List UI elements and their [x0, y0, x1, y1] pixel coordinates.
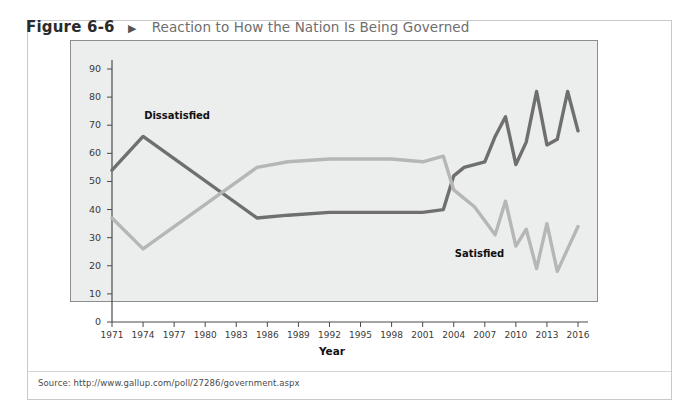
x-tick-label: 1974: [126, 330, 160, 340]
x-axis-title: Year: [0, 345, 699, 357]
y-tick-label: 80: [79, 91, 101, 102]
triangle-right-icon: ▶: [128, 23, 136, 34]
y-tick-label: 40: [79, 204, 101, 215]
source-note: Source: http://www.gallup.com/poll/27286…: [38, 378, 300, 388]
x-tick-label: 1989: [281, 330, 315, 340]
y-tick-label: 30: [79, 232, 101, 243]
y-tick-label: 0: [79, 316, 101, 327]
figure-title: Reaction to How the Nation Is Being Gove…: [152, 19, 470, 35]
y-tick-label: 70: [79, 119, 101, 130]
x-tick-label: 2010: [499, 330, 533, 340]
x-tick-label: 2016: [561, 330, 595, 340]
y-tick-label: 50: [79, 175, 101, 186]
x-tick-label: 1998: [375, 330, 409, 340]
x-tick-label: 1992: [312, 330, 346, 340]
x-tick-label: 2013: [530, 330, 564, 340]
x-tick-label: 1977: [157, 330, 191, 340]
y-tick-label: 90: [79, 63, 101, 74]
figure-caption: Figure 6-6 ▶ Reaction to How the Nation …: [26, 18, 469, 36]
x-tick-label: 1971: [95, 330, 129, 340]
figure-number: Figure 6-6: [26, 18, 115, 36]
x-tick-label: 1995: [344, 330, 378, 340]
y-tick-label: 60: [79, 147, 101, 158]
figure-panel: Figure 6-6 ▶ Reaction to How the Nation …: [0, 0, 699, 420]
x-tick-label: 1983: [219, 330, 253, 340]
series-annotation-dissatisfied: Dissatisfied: [144, 110, 210, 121]
plot-area: [70, 40, 598, 302]
source-divider: [28, 371, 671, 372]
series-annotation-satisfied: Satisfied: [455, 248, 504, 259]
x-tick-label: 2001: [406, 330, 440, 340]
y-tick-label: 10: [79, 288, 101, 299]
x-tick-label: 1986: [250, 330, 284, 340]
x-tick-label: 2004: [437, 330, 471, 340]
y-tick-label: 20: [79, 260, 101, 271]
x-tick-label: 1980: [188, 330, 222, 340]
x-tick-label: 2007: [468, 330, 502, 340]
